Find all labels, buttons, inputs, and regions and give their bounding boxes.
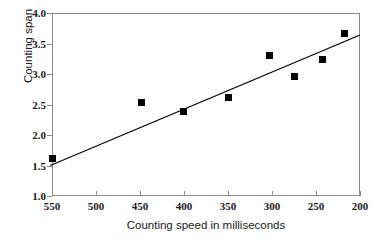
data-point (319, 56, 326, 63)
data-point (49, 155, 56, 162)
data-point (266, 52, 273, 59)
trendline (0, 0, 376, 247)
chart-figure: 1.01.52.02.53.03.54.0 550500450400350300… (0, 0, 376, 247)
data-point (225, 94, 232, 101)
data-point (180, 108, 187, 115)
data-point (341, 30, 348, 37)
x-axis-title: Counting speed in milliseconds (52, 219, 360, 231)
data-point (138, 99, 145, 106)
data-point (291, 73, 298, 80)
y-axis-title: Counting span (22, 0, 34, 126)
